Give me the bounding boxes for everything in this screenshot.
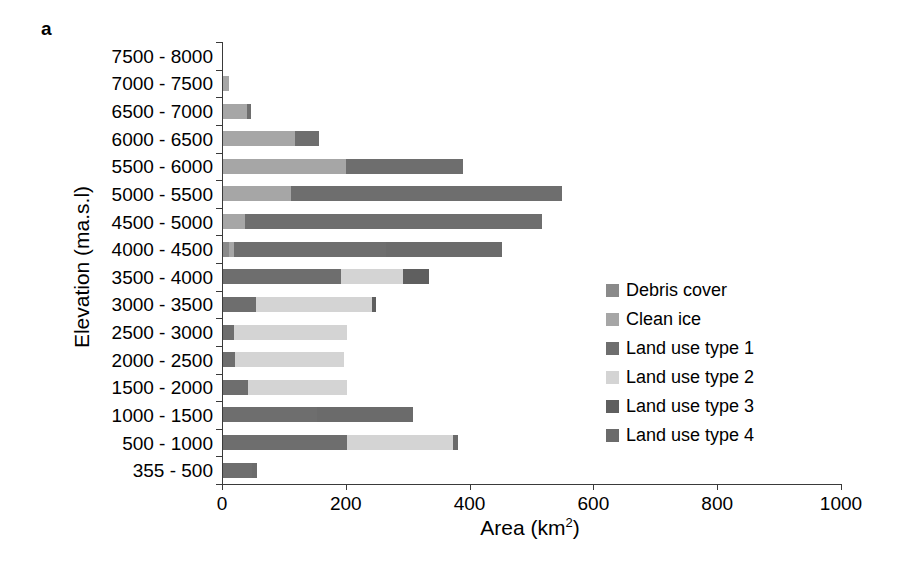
y-axis-title: Elevation (ma.s.l) xyxy=(70,107,94,427)
legend-label: Land use type 1 xyxy=(626,338,754,359)
y-axis-tick xyxy=(216,180,222,181)
bar-segment xyxy=(223,463,252,478)
x-axis-tick-label: 400 xyxy=(420,493,520,515)
y-axis-tick xyxy=(216,208,222,209)
legend-label: Debris cover xyxy=(626,280,727,301)
x-axis-tick xyxy=(593,484,594,490)
y-axis-category-label: 2500 - 3000 xyxy=(112,323,213,342)
y-axis-tick xyxy=(216,374,222,375)
legend-swatch-icon xyxy=(606,371,619,384)
bar-segment xyxy=(317,407,413,422)
legend-item[interactable]: Land use type 3 xyxy=(606,392,754,421)
x-axis-tick xyxy=(717,484,718,490)
y-axis-tick xyxy=(216,153,222,154)
bar-segment xyxy=(403,269,430,284)
bar-segment xyxy=(234,325,347,340)
bar-row xyxy=(223,214,542,229)
bar-row xyxy=(223,104,251,119)
bar-row xyxy=(223,463,257,478)
bar-segment xyxy=(223,76,229,91)
y-axis-category-label: 5500 - 6000 xyxy=(112,157,213,176)
x-axis-tick-label: 1000 xyxy=(791,493,891,515)
x-axis-tick xyxy=(841,484,842,490)
y-axis-tick xyxy=(216,318,222,319)
bar-segment xyxy=(291,186,562,201)
figure-panel-a: a Elevation (ma.s.l) 7500 - 80007000 - 7… xyxy=(0,0,899,572)
bar-segment xyxy=(346,159,464,174)
bar-segment xyxy=(223,325,234,340)
x-axis-tick-label: 0 xyxy=(172,493,272,515)
bar-segment xyxy=(453,435,458,450)
panel-label: a xyxy=(41,18,52,40)
y-axis-tick xyxy=(216,263,222,264)
x-axis-line xyxy=(222,484,842,485)
bar-row xyxy=(223,380,347,395)
y-axis-category-label: 4000 - 4500 xyxy=(112,240,213,259)
bar-segment xyxy=(295,131,319,146)
x-axis-tick xyxy=(346,484,347,490)
bar-row xyxy=(223,297,377,312)
legend-item[interactable]: Clean ice xyxy=(606,305,754,334)
bar-row xyxy=(223,242,502,257)
bar-segment xyxy=(223,131,295,146)
bar-segment xyxy=(341,269,403,284)
y-axis-category-label: 5000 - 5500 xyxy=(112,185,213,204)
y-axis-tick xyxy=(216,456,222,457)
bar-segment xyxy=(223,407,317,422)
x-axis-tick-label: 200 xyxy=(296,493,396,515)
legend-swatch-icon xyxy=(606,342,619,355)
bar-row xyxy=(223,76,229,91)
y-axis-category-label: 2000 - 2500 xyxy=(112,351,213,370)
y-axis-tick xyxy=(216,125,222,126)
legend-item[interactable]: Land use type 2 xyxy=(606,363,754,392)
x-axis-title: Area (km2) xyxy=(380,515,680,540)
bar-row xyxy=(223,352,344,367)
bar-segment xyxy=(223,380,248,395)
bar-segment xyxy=(245,214,543,229)
bar-row xyxy=(223,407,413,422)
y-axis-tick xyxy=(216,291,222,292)
x-axis-tick xyxy=(470,484,471,490)
y-axis-tick xyxy=(216,97,222,98)
x-axis-tick-label: 600 xyxy=(543,493,643,515)
legend-swatch-icon xyxy=(606,429,619,442)
y-axis-category-label: 1500 - 2000 xyxy=(112,378,213,397)
x-axis-title-superscript: 2 xyxy=(565,515,572,530)
legend: Debris coverClean iceLand use type 1Land… xyxy=(606,276,754,450)
bar-row xyxy=(223,269,429,284)
legend-item[interactable]: Land use type 1 xyxy=(606,334,754,363)
legend-label: Land use type 3 xyxy=(626,396,754,417)
bar-segment xyxy=(223,352,235,367)
x-axis-tick-label: 800 xyxy=(667,493,767,515)
y-axis-tick xyxy=(216,346,222,347)
y-axis-tick xyxy=(216,70,222,71)
y-axis-tick xyxy=(216,429,222,430)
legend-swatch-icon xyxy=(606,313,619,326)
y-axis-category-label: 500 - 1000 xyxy=(122,434,213,453)
y-axis-tick xyxy=(216,42,222,43)
y-axis-category-label: 7500 - 8000 xyxy=(112,47,213,66)
legend-item[interactable]: Debris cover xyxy=(606,276,754,305)
bar-segment xyxy=(248,380,347,395)
bar-segment xyxy=(223,214,245,229)
x-axis-title-main: Area (km xyxy=(480,516,565,539)
bar-row xyxy=(223,325,347,340)
bar-row xyxy=(223,435,458,450)
legend-swatch-icon xyxy=(606,400,619,413)
bar-segment xyxy=(223,269,341,284)
bar-row xyxy=(223,159,463,174)
bar-segment xyxy=(347,435,453,450)
y-axis-category-label: 3000 - 3500 xyxy=(112,295,213,314)
y-axis-category-label: 4500 - 5000 xyxy=(112,213,213,232)
bar-segment xyxy=(386,242,502,257)
legend-item[interactable]: Land use type 4 xyxy=(606,421,754,450)
legend-label: Land use type 2 xyxy=(626,367,754,388)
bar-segment xyxy=(235,352,343,367)
y-axis-category-label: 3500 - 4000 xyxy=(112,268,213,287)
y-axis-tick xyxy=(216,235,222,236)
bar-row xyxy=(223,186,562,201)
bar-segment xyxy=(234,242,386,257)
y-axis-category-label: 1000 - 1500 xyxy=(112,406,213,425)
y-axis-category-label: 7000 - 7500 xyxy=(112,74,213,93)
bar-segment xyxy=(223,297,256,312)
